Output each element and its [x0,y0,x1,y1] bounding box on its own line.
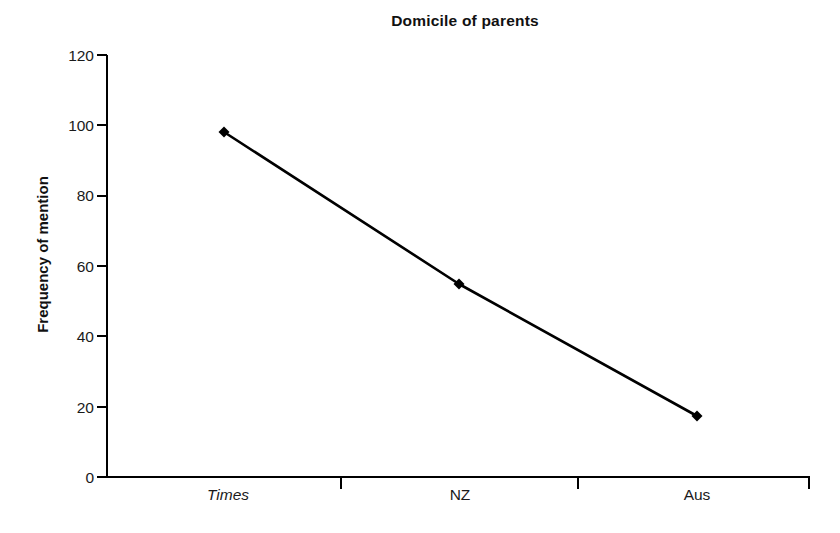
data-point-markers [219,127,703,422]
plot-area [0,0,840,533]
x-axis-ticks [341,477,809,489]
data-point-aus [692,411,703,422]
y-axis-ticks [97,55,107,477]
chart-figure: Domicile of parents Frequency of mention… [0,0,840,533]
data-series-line [224,132,697,416]
